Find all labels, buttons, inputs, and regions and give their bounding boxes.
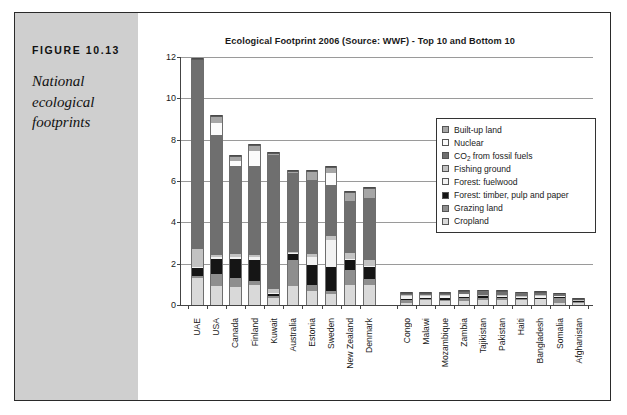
y-tick-label-2: 2 xyxy=(171,259,176,269)
bar-segment xyxy=(325,291,338,294)
bar-segment xyxy=(344,270,357,286)
bar-segment xyxy=(419,300,432,305)
bar-congo[interactable] xyxy=(400,57,413,305)
x-tick-label-mozambique: Mozambique xyxy=(440,318,450,367)
x-tick-mark xyxy=(397,305,398,309)
bar-segment xyxy=(496,292,509,295)
bar-segment xyxy=(553,303,566,305)
bar-segment xyxy=(515,293,528,295)
legend-item[interactable]: Cropland xyxy=(442,215,590,228)
bar-australia[interactable] xyxy=(287,57,300,305)
bar-segment xyxy=(287,286,300,305)
bar-segment xyxy=(477,291,490,295)
bar-segment xyxy=(191,276,204,278)
bar-kuwait[interactable] xyxy=(267,57,280,305)
bar-segment xyxy=(534,298,547,299)
x-tick-label-finland: Finland xyxy=(250,318,260,346)
bar-segment xyxy=(306,257,319,264)
x-tick-mark xyxy=(188,305,189,309)
bar-segment xyxy=(534,296,547,297)
x-tick-label-canada: Canada xyxy=(230,318,240,348)
legend-item[interactable]: Fishing ground xyxy=(442,162,590,175)
bar-segment xyxy=(458,301,471,305)
legend-item[interactable]: Nuclear xyxy=(442,136,590,149)
legend-item[interactable]: Grazing land xyxy=(442,202,590,215)
bar-segment xyxy=(477,295,490,296)
y-tick-mark-12 xyxy=(177,57,181,58)
x-tick-mark xyxy=(531,305,532,309)
y-tick-mark-6 xyxy=(177,181,181,182)
bar-segment xyxy=(229,156,242,161)
legend-swatch-icon xyxy=(442,139,449,146)
bar-segment xyxy=(191,268,204,275)
chart-title: Ecological Footprint 2006 (Source: WWF) … xyxy=(138,36,602,46)
bar-segment xyxy=(400,299,413,301)
bar-finland[interactable] xyxy=(248,57,261,305)
bar-segment xyxy=(248,285,261,305)
y-tick-label-0: 0 xyxy=(171,300,176,310)
x-tick-label-pakistan: Pakistan xyxy=(497,318,507,351)
x-tick-mark xyxy=(264,305,265,309)
legend-item[interactable]: Forest: fuelwood xyxy=(442,175,590,188)
bar-segment xyxy=(439,298,452,300)
bar-segment xyxy=(344,285,357,305)
bar-segment xyxy=(344,192,357,200)
bar-segment xyxy=(515,296,528,297)
bar-segment xyxy=(439,296,452,298)
bar-canada[interactable] xyxy=(229,57,242,305)
x-tick-label-kuwait: Kuwait xyxy=(269,318,279,344)
bar-top-edge xyxy=(229,155,242,156)
bar-segment xyxy=(267,293,280,294)
bar-segment xyxy=(400,296,413,299)
caption-panel: FIGURE 10.13 National ecological footpri… xyxy=(15,13,138,400)
bar-segment xyxy=(210,123,223,134)
bar-usa[interactable] xyxy=(210,57,223,305)
bar-segment xyxy=(210,135,223,256)
bar-segment xyxy=(496,296,509,297)
y-tick-mark-8 xyxy=(177,140,181,141)
bar-segment xyxy=(439,301,452,305)
bar-new-zealand[interactable] xyxy=(344,57,357,305)
bar-segment xyxy=(534,293,547,295)
x-tick-mark xyxy=(550,305,551,309)
bar-segment xyxy=(248,260,261,282)
bar-segment xyxy=(210,257,223,258)
bar-segment xyxy=(419,299,432,300)
bar-denmark[interactable] xyxy=(363,57,376,305)
legend-swatch-icon xyxy=(442,126,449,133)
legend-item[interactable]: Built-up land xyxy=(442,123,590,136)
bar-sweden[interactable] xyxy=(325,57,338,305)
bar-estonia[interactable] xyxy=(306,57,319,305)
x-tick-mark xyxy=(435,305,436,309)
bar-segment xyxy=(458,297,471,299)
legend-swatch-icon xyxy=(442,205,449,212)
bar-segment xyxy=(515,296,528,298)
bar-top-edge xyxy=(248,144,261,145)
x-tick-label-denmark: Denmark xyxy=(364,318,374,353)
bar-top-edge xyxy=(496,290,509,291)
x-tick-label-somalia: Somalia xyxy=(555,318,565,349)
bar-segment xyxy=(229,166,242,255)
bar-segment xyxy=(287,252,300,254)
x-tick-mark xyxy=(302,305,303,309)
bar-segment xyxy=(267,153,280,154)
legend-item[interactable]: Forest: timber, pulp and paper xyxy=(442,188,590,201)
legend-label: Nuclear xyxy=(454,138,484,148)
bar-segment xyxy=(306,265,319,286)
bar-segment xyxy=(515,298,528,299)
bar-segment xyxy=(515,300,528,305)
legend-label: Fishing ground xyxy=(454,164,511,174)
bar-segment xyxy=(210,255,223,257)
bar-segment xyxy=(477,298,490,301)
bar-segment xyxy=(325,185,338,236)
bar-malawi[interactable] xyxy=(419,57,432,305)
bar-segment xyxy=(363,198,376,260)
bar-uae[interactable] xyxy=(191,57,204,305)
gridline-12 xyxy=(181,57,593,58)
bar-segment xyxy=(534,298,547,299)
bar-segment xyxy=(267,155,280,289)
chart-panel: Ecological Footprint 2006 (Source: WWF) … xyxy=(138,13,610,400)
legend-label: Forest: fuelwood xyxy=(454,177,518,187)
bar-segment xyxy=(306,291,319,305)
legend-item[interactable]: CO2 from fossil fuels xyxy=(442,149,590,162)
